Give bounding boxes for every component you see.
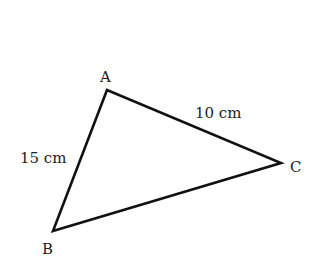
vertex-label-c: C <box>290 158 301 176</box>
vertex-label-a: A <box>99 68 111 86</box>
vertex-label-b: B <box>42 240 53 258</box>
side-ab-length: 15 cm <box>20 149 66 167</box>
triangle-abc <box>53 90 281 231</box>
side-ac-length: 10 cm <box>195 104 241 122</box>
triangle-diagram: A B C 15 cm 10 cm <box>0 0 327 277</box>
